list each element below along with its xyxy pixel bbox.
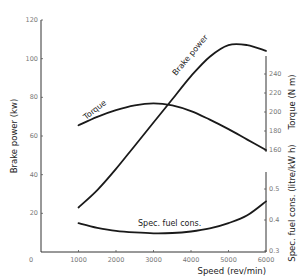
- fuel-tick-label: 0.5: [269, 185, 279, 193]
- torque-tick-label: 200: [269, 108, 281, 116]
- fuel-tick-label: 0.4: [269, 216, 279, 224]
- torque-tick-label: 180: [269, 127, 281, 135]
- left-tick-label: 100: [26, 55, 38, 63]
- torque-axis-ticks: 160180200220240: [264, 70, 281, 154]
- left-tick-label: 20: [30, 209, 38, 217]
- left-axis-title: Brake power (kw): [9, 99, 19, 174]
- x-tick-label: 6000: [258, 256, 275, 264]
- left-tick-label: 120: [26, 16, 38, 24]
- left-tick-label: 80: [30, 93, 38, 101]
- torque-tick-label: 160: [269, 146, 281, 154]
- torque-curve: [79, 103, 267, 150]
- x-tick-label: 5000: [220, 256, 237, 264]
- brake-power-curve-label: Brake power: [171, 32, 211, 77]
- x-axis-title: Speed (rev/min): [198, 266, 266, 276]
- fuel-consumption-curve: [79, 201, 267, 233]
- x-tick-label: 4000: [183, 256, 200, 264]
- x-tick-label: 2000: [108, 256, 125, 264]
- fuel-tick-label: 0.3: [269, 247, 279, 255]
- origin-label: 0: [29, 256, 33, 264]
- left-tick-label: 40: [30, 171, 38, 179]
- fuel-curve-label: Spec. fuel cons.: [138, 219, 201, 228]
- engine-performance-chart: 20406080100120 100020003000400050006000 …: [0, 0, 306, 278]
- torque-tick-label: 240: [269, 70, 281, 78]
- torque-axis-title: Torque (N m): [287, 75, 297, 131]
- x-tick-label: 1000: [70, 256, 87, 264]
- fuel-axis-title: Spec. fuel cons. (litre/kW h): [287, 144, 297, 261]
- left-tick-label: 60: [30, 132, 38, 140]
- x-tick-label: 3000: [145, 256, 162, 264]
- torque-tick-label: 220: [269, 89, 281, 97]
- left-axis-ticks: 20406080100120: [26, 16, 43, 217]
